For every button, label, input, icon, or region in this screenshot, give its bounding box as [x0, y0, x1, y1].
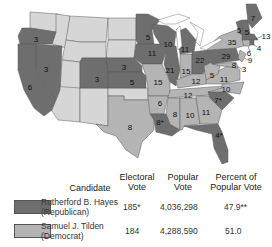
state-kansas [108, 72, 146, 88]
svg-text:8: 8 [173, 110, 178, 119]
svg-text:15: 15 [182, 67, 191, 76]
header-electoral-vote: Electoral Vote [112, 172, 162, 192]
candidate-name: Rutherford B. Hayes (Republican) [41, 197, 118, 217]
svg-text:6: 6 [158, 99, 163, 108]
electoral-vote: 184 [125, 226, 139, 236]
svg-text:11: 11 [181, 45, 190, 54]
svg-text:3: 3 [34, 35, 39, 44]
percent-vote: 51.0 [225, 226, 242, 236]
popular-vote: 4,288,590 [160, 226, 198, 236]
results-table: Candidate Electoral Vote Popular Vote Pe… [0, 172, 272, 247]
svg-text:4: 4 [257, 44, 262, 53]
svg-text:22: 22 [196, 56, 205, 65]
electoral-vote: 185* [123, 202, 141, 212]
svg-text:15: 15 [154, 78, 163, 87]
percent-vote: 47.9** [224, 202, 247, 212]
header-percent-popular-vote: Percent of Popular Vote [204, 172, 268, 192]
candidate-name: Samuel J. Tilden (Democrat) [41, 221, 104, 241]
svg-text:7: 7 [251, 14, 256, 23]
popular-vote: 4,036,298 [160, 202, 198, 212]
svg-text:11: 11 [202, 108, 211, 117]
svg-text:29: 29 [222, 52, 231, 61]
svg-text:8*: 8* [156, 118, 164, 127]
svg-text:11: 11 [220, 75, 229, 84]
svg-text:7*: 7* [214, 96, 222, 105]
svg-text:6: 6 [28, 83, 33, 92]
svg-text:12: 12 [192, 77, 201, 86]
svg-text:13: 13 [262, 32, 271, 41]
svg-text:35: 35 [228, 38, 237, 47]
svg-text:3: 3 [122, 63, 127, 72]
svg-text:10: 10 [186, 111, 195, 120]
svg-text:3: 3 [95, 75, 100, 84]
svg-text:3: 3 [44, 65, 49, 74]
svg-text:21: 21 [166, 66, 175, 75]
svg-text:11: 11 [148, 49, 157, 58]
state-florida [184, 124, 228, 164]
svg-text:10: 10 [222, 85, 231, 94]
svg-text:8: 8 [232, 61, 237, 70]
election-map: 3 6 3 3 3 5 8 5 11 15 6 8* 10 21 11 15 2… [0, 0, 272, 175]
header-popular-vote: Popular Vote [158, 172, 208, 192]
svg-text:5: 5 [146, 33, 151, 42]
svg-text:10: 10 [164, 40, 173, 49]
svg-text:5: 5 [245, 28, 250, 37]
svg-text:12: 12 [184, 91, 193, 100]
svg-text:5: 5 [237, 26, 242, 35]
svg-text:5: 5 [130, 78, 135, 87]
svg-text:3: 3 [242, 65, 247, 74]
svg-text:9: 9 [248, 56, 253, 65]
svg-text:5: 5 [210, 71, 215, 80]
svg-text:8: 8 [128, 123, 133, 132]
svg-text:4*: 4* [215, 131, 223, 140]
